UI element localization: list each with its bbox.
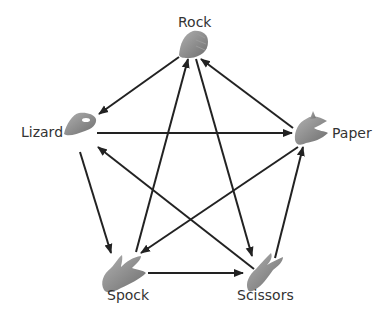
- arrow-scissors-to-lizard: [98, 147, 254, 269]
- paper-hand-icon: [295, 111, 328, 145]
- arrow-spock-to-rock: [136, 59, 188, 252]
- diagram-canvas: [0, 0, 389, 318]
- node-label-lizard: Lizard: [21, 124, 63, 140]
- node-label-scissors: Scissors: [237, 287, 294, 303]
- node-label-rock: Rock: [178, 14, 211, 30]
- node-label-spock: Spock: [107, 287, 149, 303]
- lizard-hand-icon: [64, 113, 96, 135]
- arrow-lizard-to-spock: [80, 152, 111, 253]
- arrow-paper-to-rock: [201, 59, 293, 128]
- arrow-rock-to-lizard: [99, 57, 179, 114]
- arrow-rock-to-scissors: [196, 59, 252, 256]
- scissors-hand-icon: [247, 253, 283, 291]
- arrow-scissors-to-paper: [275, 147, 303, 258]
- node-label-paper: Paper: [332, 125, 372, 141]
- rock-hand-icon: [179, 31, 208, 58]
